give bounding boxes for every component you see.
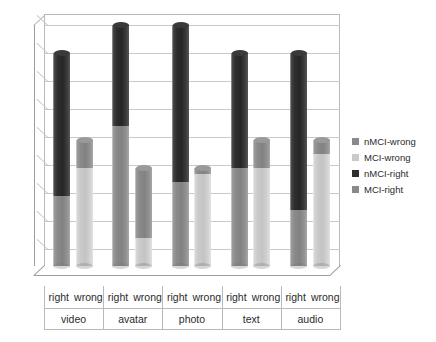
x-group-photo: photo <box>162 308 221 330</box>
legend-swatch-nmci-right <box>352 170 359 177</box>
bar-segment-photo-right-nmci-right <box>172 25 189 182</box>
x-axis-subcategory-row: rightwrongrightwrongrightwrongrightwrong… <box>44 286 340 308</box>
x-group-text: text <box>222 308 281 330</box>
x-tick-avatar-wrong: wrong <box>133 286 163 308</box>
x-tick-audio-right: right <box>281 286 311 308</box>
y-axis-line <box>34 25 35 276</box>
legend-label: nMCI-right <box>364 168 408 179</box>
legend-swatch-nmci-wrong <box>352 138 359 145</box>
bar-segment-text-wrong-nmci-wrong <box>253 140 270 168</box>
legend-swatch-mci-wrong <box>352 154 359 161</box>
bar-segment-avatar-wrong-nmci-wrong <box>135 168 152 238</box>
x-tick-video-right: right <box>44 286 74 308</box>
x-axis-labels: rightwrongrightwrongrightwrongrightwrong… <box>34 286 340 330</box>
bar-photo-right <box>172 25 189 266</box>
legend-item-mci-wrong[interactable]: MCI-wrong <box>352 152 436 163</box>
group-divider-text <box>222 286 223 330</box>
bar-segment-avatar-wrong-mci-wrong <box>135 238 152 266</box>
bar-chart: 181614121086420 rightwrongrightwrongrigh… <box>0 0 436 342</box>
bar-segment-text-wrong-mci-wrong <box>253 168 270 266</box>
x-tick-text-wrong: wrong <box>251 286 281 308</box>
legend-label: nMCI-wrong <box>364 136 416 147</box>
x-group-avatar: avatar <box>103 308 162 330</box>
group-divider-photo <box>162 286 163 330</box>
bar-segment-photo-right-mci-right <box>172 182 189 266</box>
bar-text-right <box>231 53 248 266</box>
group-divider-avatar <box>103 286 104 330</box>
bar-segment-text-right-nmci-right <box>231 53 248 168</box>
bar-segment-avatar-right-nmci-right <box>112 25 129 126</box>
bar-photo-wrong <box>194 168 211 266</box>
x-group-audio: audio <box>281 308 340 330</box>
bar-avatar-right <box>112 25 129 266</box>
x-tick-text-right: right <box>222 286 252 308</box>
bar-segment-audio-wrong-nmci-wrong <box>313 140 330 154</box>
bar-segment-audio-right-mci-right <box>290 210 307 266</box>
bar-segment-video-right-mci-right <box>53 196 70 266</box>
bar-text-wrong <box>253 140 270 266</box>
legend-swatch-mci-right <box>352 186 359 193</box>
legend: nMCI-wrongMCI-wrongnMCI-rightMCI-right <box>352 136 436 195</box>
legend-item-nmci-wrong[interactable]: nMCI-wrong <box>352 136 436 147</box>
x-tick-photo-right: right <box>162 286 192 308</box>
bar-audio-right <box>290 53 307 266</box>
x-tick-photo-wrong: wrong <box>192 286 222 308</box>
bar-segment-avatar-right-mci-right <box>112 126 129 266</box>
bar-video-wrong <box>76 140 93 266</box>
bar-audio-wrong <box>313 140 330 266</box>
bar-segment-audio-wrong-mci-wrong <box>313 154 330 266</box>
bar-series-layer <box>44 14 340 276</box>
legend-label: MCI-right <box>364 184 403 195</box>
bar-segment-audio-right-nmci-right <box>290 53 307 210</box>
bar-segment-video-right-nmci-right <box>53 53 70 196</box>
bar-video-right <box>53 53 70 266</box>
bar-avatar-wrong <box>135 168 152 266</box>
x-tick-avatar-right: right <box>103 286 133 308</box>
legend-item-nmci-right[interactable]: nMCI-right <box>352 168 436 179</box>
x-tick-audio-wrong: wrong <box>310 286 340 308</box>
bar-segment-video-wrong-mci-wrong <box>76 168 93 266</box>
legend-label: MCI-wrong <box>364 152 410 163</box>
bar-segment-text-right-mci-right <box>231 168 248 266</box>
group-divider-video <box>44 286 45 330</box>
bar-segment-photo-wrong-nmci-wrong <box>194 168 211 174</box>
x-axis-group-row: videoavatarphototextaudio <box>44 308 340 330</box>
group-divider-end <box>340 286 341 330</box>
bar-segment-photo-wrong-mci-wrong <box>194 174 211 266</box>
group-divider-audio <box>281 286 282 330</box>
legend-item-mci-right[interactable]: MCI-right <box>352 184 436 195</box>
x-group-video: video <box>44 308 103 330</box>
x-tick-video-wrong: wrong <box>74 286 104 308</box>
bar-segment-video-wrong-nmci-wrong <box>76 140 93 168</box>
